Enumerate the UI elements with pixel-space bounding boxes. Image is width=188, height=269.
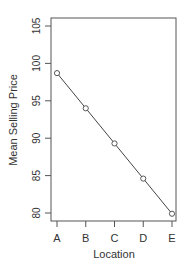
x-tick-label: A	[53, 232, 61, 244]
data-point-marker	[112, 141, 117, 146]
x-tick-label: D	[139, 232, 147, 244]
data-series	[54, 71, 174, 217]
y-tick-label: 105	[31, 17, 42, 34]
y-tick-label: 80	[31, 207, 42, 219]
data-point-marker	[169, 211, 174, 216]
line-chart: 80859095100105 ABCDE Mean Selling Price …	[0, 0, 188, 269]
x-tick-label: B	[82, 232, 89, 244]
x-tick-label: C	[111, 232, 119, 244]
y-tick-label: 100	[31, 55, 42, 72]
data-point-marker	[54, 71, 59, 76]
y-axis: 80859095100105	[31, 17, 51, 218]
data-point-marker	[141, 176, 146, 181]
y-axis-label: Mean Selling Price	[7, 74, 19, 166]
x-tick-label: E	[168, 232, 175, 244]
data-point-marker	[83, 106, 88, 111]
plot-frame	[51, 18, 176, 221]
y-tick-label: 85	[31, 170, 42, 182]
x-axis-label: Location	[93, 248, 135, 260]
y-tick-label: 90	[31, 132, 42, 144]
y-tick-label: 95	[31, 95, 42, 107]
x-axis: ABCDE	[53, 221, 175, 244]
